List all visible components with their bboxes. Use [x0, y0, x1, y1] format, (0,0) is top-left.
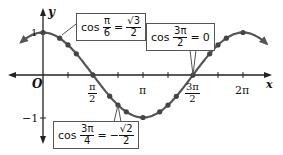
callout-cos-3pi-over-2: cos 3π2 = 0 — [146, 23, 215, 51]
curve-point — [224, 36, 229, 41]
x-tick-label-pi: π — [139, 85, 146, 96]
x-axis-arrow-left-icon — [8, 72, 16, 78]
x-axis-label: x — [266, 79, 273, 90]
callout-pointer — [62, 24, 76, 35]
curve-point — [240, 30, 245, 35]
x-tick-label-2pi: 2π — [235, 85, 249, 96]
y-tick-label-neg1: −1 — [22, 113, 38, 124]
y-tick-label-1: 1 — [31, 28, 37, 38]
curve-arrow-left-icon — [19, 35, 28, 44]
curve-point — [40, 30, 45, 35]
curve-point — [215, 42, 220, 47]
curve-point — [174, 94, 179, 99]
curve-point — [157, 109, 162, 114]
curve-point — [107, 94, 112, 99]
origin-label: O — [32, 78, 42, 90]
y-axis-arrow-icon — [40, 8, 46, 16]
y-axis-label: y — [48, 6, 55, 18]
curve-point — [57, 36, 62, 41]
x-tick-label-pi-over-2: π2 — [88, 82, 97, 104]
y-axis-arrow-down-icon — [40, 136, 46, 144]
curve-point — [65, 42, 70, 47]
curve-point — [165, 103, 170, 108]
curve-point — [207, 51, 212, 56]
curve-point — [74, 51, 79, 56]
curve-point — [140, 115, 145, 120]
callout-cos-pi-over-6: cos π6 = √32 — [76, 13, 146, 41]
x-tick-label-3pi-over-2: 3π2 — [185, 82, 200, 104]
callout-cos-3pi-over-4: cos 3π4 = − √22 — [53, 121, 139, 149]
curve-point — [124, 109, 129, 114]
curve-point — [90, 72, 95, 77]
